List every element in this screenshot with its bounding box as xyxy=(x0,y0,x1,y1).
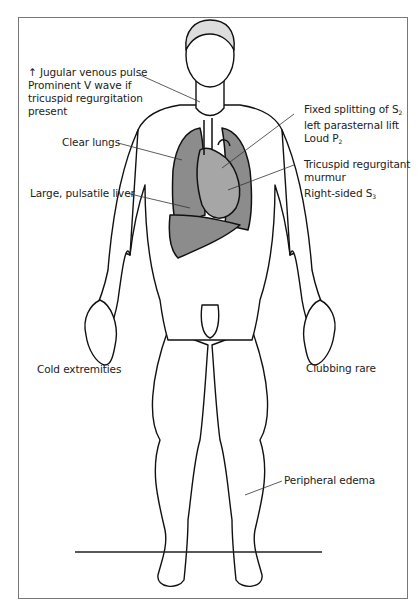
right-leg xyxy=(212,330,268,586)
genitals xyxy=(201,305,218,338)
label-fixed-splitting: Fixed splitting of S2 left parasternal l… xyxy=(304,103,402,148)
label-large-pulsatile-liver: Large, pulsatile liver xyxy=(30,187,135,200)
label-jugular-venous-pulse: ↑ Jugular venous pulse Prominent V wave … xyxy=(28,66,147,118)
label-clear-lungs: Clear lungs xyxy=(62,136,120,149)
left-leg xyxy=(152,330,208,586)
label-clubbing-rare: Clubbing rare xyxy=(306,362,376,375)
label-tricuspid-murmur: Tricuspid regurgitant murmur Right-sided… xyxy=(304,158,410,203)
label-cold-extremities: Cold extremities xyxy=(37,363,121,376)
label-peripheral-edema: Peripheral edema xyxy=(284,474,375,487)
up-arrow-icon: ↑ xyxy=(28,66,37,78)
leader-jvp xyxy=(140,75,200,102)
